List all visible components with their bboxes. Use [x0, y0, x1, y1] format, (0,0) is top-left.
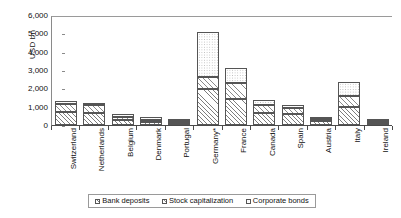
bar-column[interactable]: [138, 17, 164, 125]
y-tick-label: 6,000: [28, 12, 48, 20]
x-tick-label: France: [239, 128, 248, 186]
bar-column[interactable]: [251, 17, 277, 125]
bar-segment[interactable]: [367, 123, 389, 125]
stacked-bar[interactable]: [225, 68, 247, 125]
y-tick-label: 3,000: [28, 67, 48, 75]
legend-label: Stock capitalization: [169, 197, 233, 205]
x-tick-label: Germany*: [211, 128, 220, 186]
stacked-bar[interactable]: [55, 101, 77, 125]
bar-segment[interactable]: [338, 96, 360, 107]
stacked-bar[interactable]: [83, 103, 105, 125]
bar-column[interactable]: [365, 17, 391, 125]
bar-segment[interactable]: [55, 104, 77, 112]
x-tick-label: Portugal: [182, 128, 191, 186]
legend-swatch-icon: [246, 199, 251, 204]
legend-swatch-icon: [162, 199, 167, 204]
bar-column[interactable]: [336, 17, 362, 125]
bar-segment[interactable]: [197, 89, 219, 125]
x-tick-label: Italy: [353, 128, 362, 186]
legend-label: Bank deposits: [102, 197, 149, 205]
stacked-bar[interactable]: [253, 100, 275, 125]
x-tick-label: Denmark: [154, 128, 163, 186]
x-tick-label: Switzerland: [69, 128, 78, 186]
bar-segment[interactable]: [338, 107, 360, 125]
x-tick-label: Ireland: [381, 128, 390, 186]
bar-segment[interactable]: [282, 114, 304, 125]
plot-area: [51, 16, 392, 126]
bar-segment[interactable]: [225, 99, 247, 125]
bar-segment[interactable]: [168, 123, 190, 125]
chart-legend: Bank depositsStock capitalizationCorpora…: [88, 194, 316, 208]
bar-segment[interactable]: [112, 120, 134, 125]
bar-segment[interactable]: [310, 121, 332, 125]
bar-segment[interactable]: [338, 82, 360, 96]
legend-item[interactable]: Corporate bonds: [246, 197, 309, 205]
legend-item[interactable]: Bank deposits: [95, 197, 149, 205]
bar-segment[interactable]: [225, 83, 247, 100]
y-tick-label: 2,000: [28, 85, 48, 93]
x-tick-label: Spain: [296, 128, 305, 186]
legend-label: Corporate bonds: [253, 197, 309, 205]
bar-group: [52, 17, 392, 125]
bar-segment[interactable]: [83, 105, 105, 113]
stacked-bar[interactable]: [282, 105, 304, 125]
bar-column[interactable]: [308, 17, 334, 125]
x-tick-label: Belgium: [126, 128, 135, 186]
stacked-bar[interactable]: [112, 114, 134, 125]
bar-column[interactable]: [110, 17, 136, 125]
bar-column[interactable]: [280, 17, 306, 125]
bar-column[interactable]: [81, 17, 107, 125]
bar-segment[interactable]: [197, 32, 219, 78]
x-tick-label: Netherlands: [97, 128, 106, 186]
stacked-bar[interactable]: [197, 32, 219, 125]
y-tick-label: 4,000: [28, 49, 48, 57]
y-tick-label: 0: [44, 122, 48, 130]
bar-segment[interactable]: [55, 112, 77, 125]
bar-segment[interactable]: [253, 105, 275, 113]
bar-column[interactable]: [195, 17, 221, 125]
x-tick-label: Austria: [324, 128, 333, 186]
bar-column[interactable]: [166, 17, 192, 125]
bar-column[interactable]: [223, 17, 249, 125]
legend-swatch-icon: [95, 199, 100, 204]
stacked-bar[interactable]: [338, 82, 360, 125]
stacked-bar[interactable]: [140, 117, 162, 125]
x-tick-label: Canada: [268, 128, 277, 186]
chart-figure: USD bn 6,0005,0004,0003,0002,0001,0000 S…: [0, 0, 401, 218]
stacked-bar[interactable]: [367, 119, 389, 125]
bar-segment[interactable]: [197, 77, 219, 89]
x-tick-mark: [392, 126, 393, 130]
bar-column[interactable]: [53, 17, 79, 125]
bar-segment[interactable]: [225, 68, 247, 83]
y-axis-tick-labels: 6,0005,0004,0003,0002,0001,0000: [14, 11, 48, 131]
y-tick-label: 1,000: [28, 104, 48, 112]
x-axis-tick-labels: SwitzerlandNetherlandsBelgiumDenmarkPort…: [51, 130, 392, 188]
y-tick-label: 5,000: [28, 30, 48, 38]
legend-item[interactable]: Stock capitalization: [162, 197, 233, 205]
bar-segment[interactable]: [140, 122, 162, 125]
stacked-bar[interactable]: [310, 117, 332, 125]
bar-segment[interactable]: [83, 113, 105, 125]
bar-segment[interactable]: [253, 113, 275, 125]
stacked-bar[interactable]: [168, 119, 190, 125]
